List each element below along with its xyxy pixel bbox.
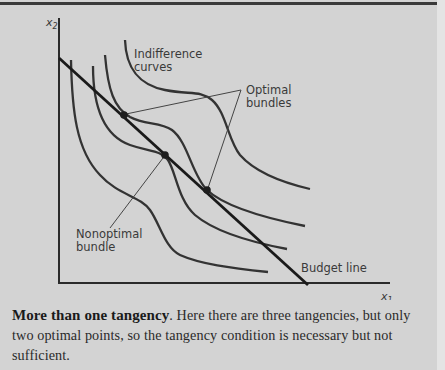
nonoptimal-bundle-dot <box>161 151 169 159</box>
figure-caption: More than one tangency. Here there are t… <box>12 305 432 365</box>
indifference-curve-3 <box>105 55 305 226</box>
indifference-curves-label-line2: curves <box>134 60 172 74</box>
indifference-curves-label-line1: Indifference <box>134 47 202 61</box>
figure-tangency: x2 x1 Indifference curves Optimal bundle… <box>0 0 445 300</box>
budget-line-label: Budget line <box>301 261 367 275</box>
optimal-bundles-label-line1: Optimal <box>246 83 292 97</box>
nonoptimal-bundle-label-line1: Nonoptimal <box>76 227 142 241</box>
x-axis-label: x1 <box>380 290 393 300</box>
optimal-bundle-dot-2 <box>203 186 211 194</box>
y-axis-label: x2 <box>45 16 58 31</box>
optimal-bundles-label-line2: bundles <box>246 96 291 110</box>
caption-title: More than one tangency <box>12 307 169 323</box>
optimal-bundle-dot-1 <box>120 111 128 119</box>
nonoptimal-bundle-label-line2: bundle <box>76 240 115 254</box>
